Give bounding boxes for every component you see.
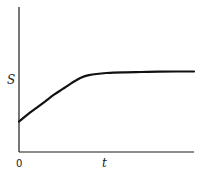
series-line-s [19, 72, 194, 122]
x-tick-label-0: 0 [16, 158, 22, 169]
x-axis-label: t [102, 156, 107, 170]
y-axis-label: S [7, 73, 15, 87]
chart: S t 0 [0, 0, 205, 177]
